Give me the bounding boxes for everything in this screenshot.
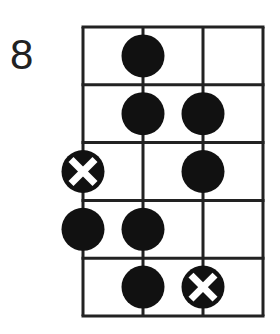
root-note-x-icon	[62, 150, 105, 193]
note-dot	[62, 208, 105, 251]
note-dot	[122, 92, 165, 135]
note-dot	[122, 208, 165, 251]
note-dot	[182, 150, 225, 193]
root-note-x-icon	[182, 266, 225, 309]
note-dot	[122, 34, 165, 77]
note-dot	[122, 266, 165, 309]
fretboard-grid	[0, 0, 280, 334]
note-dot	[182, 92, 225, 135]
